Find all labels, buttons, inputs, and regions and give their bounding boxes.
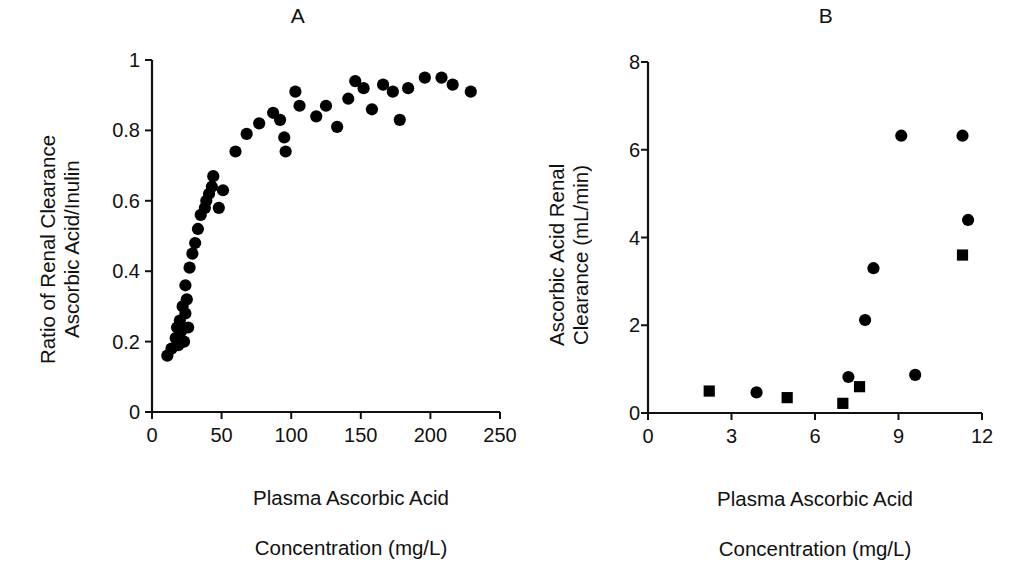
panel-b-ytick-2: 2 [605, 314, 640, 337]
panel-b-xtick-12: 12 [971, 425, 993, 448]
panel-b-yaxis-title: Ascorbic Acid Renal Clearance (mL/min) [545, 130, 593, 380]
panel-b-xtick-6: 6 [809, 425, 820, 448]
panel-b-xaxis-title-line2: Concentration (mg/L) [640, 536, 990, 561]
panel-b-yaxis-title-line2: Clearance (mL/min) [569, 130, 593, 380]
panel-b-xaxis-title: Plasma Ascorbic Acid Concentration (mg/L… [640, 461, 990, 564]
panel-b-ytick-0: 0 [605, 402, 640, 425]
panel-b-yaxis-title-line1: Ascorbic Acid Renal [545, 130, 569, 380]
panel-b-xtick-0: 0 [642, 425, 653, 448]
panel-b-xtick-3: 3 [726, 425, 737, 448]
panel-b-ytick-8: 8 [605, 51, 640, 74]
panel-b-ytick-6: 6 [605, 138, 640, 161]
panel-b-xtick-9: 9 [893, 425, 904, 448]
panel-b-title: B [806, 4, 846, 28]
panel-b-xaxis-title-line1: Plasma Ascorbic Acid [640, 486, 990, 511]
panel-b-ytick-4: 4 [605, 226, 640, 249]
